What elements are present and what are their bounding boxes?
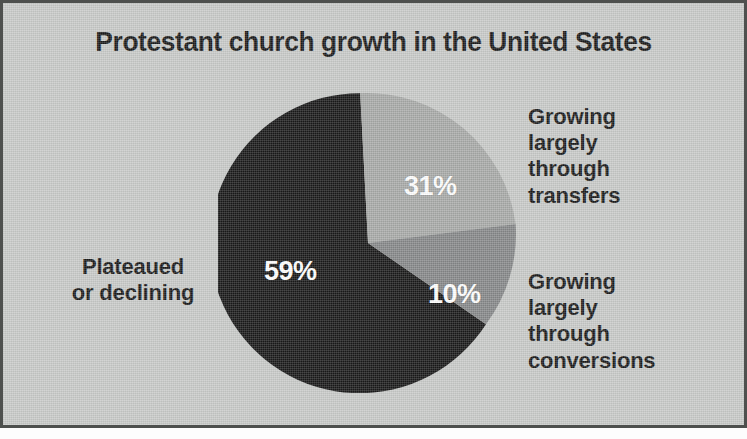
slice-label-conversions-line-2: largely [528,295,728,321]
slice-label-plateaued-line-2: or declining [52,280,214,306]
frame-rule-bottom [0,425,747,428]
slice-label-plateaued: Plateaued or declining [52,254,214,306]
slice-value-plateaued: 59% [264,256,317,287]
slice-label-conversions-line-3: through [528,321,728,347]
slice-label-conversions: Growing largely through conversions [528,269,728,374]
chart-page: Protestant church growth in the United S… [0,0,747,439]
slice-value-transfers: 31% [404,171,457,202]
slice-label-transfers-line-3: through [528,156,728,182]
frame-rule-left [0,0,3,428]
slice-label-conversions-line-4: conversions [528,348,728,374]
page-title: Protestant church growth in the United S… [22,26,724,58]
slice-value-conversions: 10% [428,279,481,310]
pie-chart-svg [218,93,518,393]
slice-label-transfers: Growing largely through transfers [528,104,728,209]
pie-chart [218,93,518,393]
frame-rule-top [0,0,747,3]
paper-bottom-margin [0,428,747,439]
slice-label-plateaued-line-1: Plateaued [52,254,214,280]
slice-label-transfers-line-4: transfers [528,183,728,209]
pie-slice-transfers [360,93,515,243]
slice-label-conversions-line-1: Growing [528,269,728,295]
slice-label-transfers-line-1: Growing [528,104,728,130]
slice-label-transfers-line-2: largely [528,130,728,156]
